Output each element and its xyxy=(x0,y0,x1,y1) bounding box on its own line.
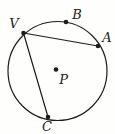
point-label-A: A xyxy=(101,30,111,45)
point-dot-B xyxy=(64,20,69,25)
center-dot-P xyxy=(54,67,59,72)
circle-diagram: VBACP xyxy=(0,0,115,134)
point-label-B: B xyxy=(71,7,82,22)
chord-VA xyxy=(24,33,99,46)
point-dot-V xyxy=(21,31,26,36)
geometry-figure: VBACP xyxy=(0,0,115,134)
point-label-C: C xyxy=(42,119,52,134)
point-label-V: V xyxy=(9,16,20,31)
point-dot-A xyxy=(96,44,101,49)
center-label-P: P xyxy=(58,72,68,87)
chord-VC xyxy=(24,33,49,117)
